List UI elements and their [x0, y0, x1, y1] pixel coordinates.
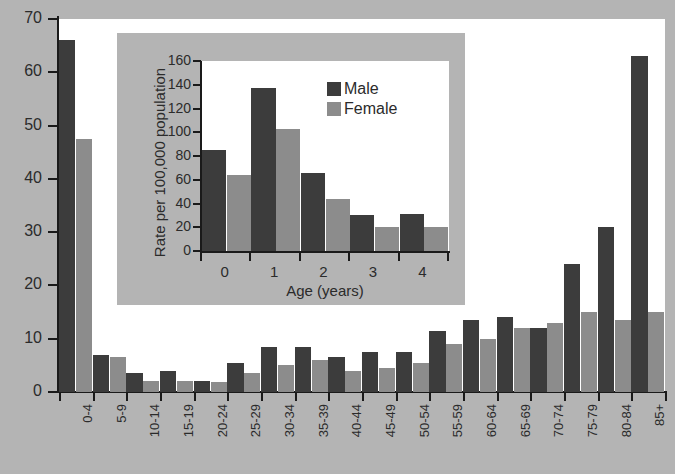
main-bar-female-60-64 [480, 339, 496, 392]
inset-bar-male-age-0 [202, 150, 226, 251]
inset-y-tick-mark [193, 131, 201, 133]
inset-x-tick-label: 2 [309, 264, 339, 279]
main-y-tick-label: 40 [8, 170, 42, 186]
main-bar-male-70-74 [530, 328, 546, 392]
main-bar-male-15-19 [160, 371, 176, 392]
figure-container: 010203040506070 0-45-910-1415-1920-2425-… [0, 0, 675, 474]
main-bar-male-50-54 [396, 352, 412, 392]
main-bar-female-70-74 [547, 323, 563, 392]
main-bar-male-30-34 [261, 347, 277, 392]
main-y-tick-label: 60 [8, 63, 42, 79]
main-bar-female-65-69 [514, 328, 530, 392]
inset-y-tick-label: 120 [157, 101, 191, 115]
inset-x-tick-label: 4 [407, 264, 437, 279]
inset-bar-male-age-1 [251, 88, 275, 251]
main-x-tick-label: 45-49 [384, 404, 397, 437]
inset-y-tick-label: 0 [157, 243, 191, 257]
main-bar-female-80-84 [615, 320, 631, 392]
main-y-tick-label: 50 [8, 117, 42, 133]
inset-bar-chart: Rate per 100,000 population 020406080100… [117, 33, 465, 305]
inset-x-tick-mark [348, 253, 350, 261]
main-bar-male-40-44 [328, 357, 344, 392]
main-x-tick-label: 60-64 [485, 404, 498, 437]
main-x-tick-label: 75-79 [586, 404, 599, 437]
inset-bars-layer [202, 61, 449, 251]
inset-y-tick-mark [193, 84, 201, 86]
main-y-tick-label: 0 [8, 383, 42, 399]
inset-x-tick-mark [447, 253, 449, 261]
main-x-tick-label: 80-84 [620, 404, 633, 437]
inset-x-tick-label: 0 [210, 264, 240, 279]
main-x-tick-mark [463, 393, 465, 401]
inset-y-tick-mark [193, 155, 201, 157]
inset-x-tick-mark [200, 253, 202, 261]
inset-y-tick-label: 140 [157, 77, 191, 91]
main-x-tick-mark [261, 393, 263, 401]
main-x-tick-label: 70-74 [552, 404, 565, 437]
main-y-tick-mark [48, 284, 57, 286]
inset-y-tick-mark [193, 108, 201, 110]
main-y-tick-mark [48, 71, 57, 73]
inset-x-tick-mark [249, 253, 251, 261]
main-y-tick-mark [48, 178, 57, 180]
inset-bar-male-age-4 [400, 214, 424, 251]
main-bar-male-55-59 [429, 331, 445, 392]
main-x-tick-mark [631, 393, 633, 401]
inset-legend: MaleFemale [327, 81, 397, 121]
main-x-tick-mark [160, 393, 162, 401]
main-x-tick-label: 55-59 [451, 404, 464, 437]
main-x-tick-mark [497, 393, 499, 401]
main-bar-female-35-39 [312, 360, 328, 392]
main-y-tick-mark [48, 391, 57, 393]
main-x-tick-label: 10-14 [148, 404, 161, 437]
main-bar-female-10-14 [143, 381, 159, 392]
main-bar-male-20-24 [194, 381, 210, 392]
inset-y-tick-mark [193, 179, 201, 181]
main-x-tick-mark [665, 393, 667, 401]
inset-y-tick-label: 160 [157, 53, 191, 67]
main-x-tick-mark [362, 393, 364, 401]
main-x-tick-mark [227, 393, 229, 401]
main-x-tick-mark [328, 393, 330, 401]
female-swatch-icon [327, 102, 341, 116]
main-bar-female-45-49 [379, 368, 395, 392]
main-y-tick-mark [48, 125, 57, 127]
main-x-tick-mark [295, 393, 297, 401]
inset-x-tick-mark [299, 253, 301, 261]
main-x-tick-mark [93, 393, 95, 401]
inset-bar-male-age-3 [350, 215, 374, 251]
legend-item-male: Male [327, 81, 397, 97]
main-x-tick-label: 15-19 [182, 404, 195, 437]
main-x-tick-mark [126, 393, 128, 401]
main-y-tick-label: 20 [8, 276, 42, 292]
main-x-tick-mark [194, 393, 196, 401]
legend-label: Male [344, 81, 379, 97]
main-x-tick-mark [429, 393, 431, 401]
main-bar-female-85+ [648, 312, 664, 392]
male-swatch-icon [327, 82, 341, 96]
main-x-tick-mark [530, 393, 532, 401]
inset-bar-female-age-0 [227, 175, 251, 251]
inset-x-tick-label: 3 [358, 264, 388, 279]
main-x-tick-label: 30-34 [283, 404, 296, 437]
main-x-tick-label: 5-9 [115, 404, 128, 423]
main-x-tick-label: 50-54 [418, 404, 431, 437]
main-bar-male-10-14 [126, 373, 142, 392]
inset-bar-female-age-2 [326, 199, 350, 251]
main-x-tick-label: 35-39 [317, 404, 330, 437]
inset-y-tick-mark [193, 203, 201, 205]
main-bar-female-25-29 [244, 373, 260, 392]
main-bar-male-60-64 [463, 320, 479, 392]
main-x-tick-label: 65-69 [519, 404, 532, 437]
main-x-tick-mark [564, 393, 566, 401]
legend-label: Female [344, 101, 397, 117]
main-bar-male-35-39 [295, 347, 311, 392]
main-y-tick-label: 10 [8, 330, 42, 346]
inset-y-tick-label: 100 [157, 124, 191, 138]
main-bar-male-80-84 [598, 227, 614, 392]
main-bar-female-40-44 [345, 371, 361, 392]
main-bar-female-30-34 [278, 365, 294, 392]
main-y-tick-mark [48, 338, 57, 340]
main-x-tick-label: 20-24 [216, 404, 229, 437]
main-bar-female-20-24 [211, 382, 227, 392]
